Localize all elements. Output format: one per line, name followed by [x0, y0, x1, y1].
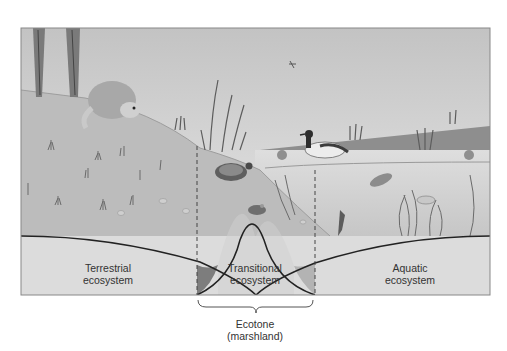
- terrestrial-label: Terrestrial ecosystem: [68, 262, 148, 286]
- ecotone-bracket: [198, 300, 313, 313]
- ecotone-diagram: [0, 0, 507, 351]
- aquatic-label: Aquatic ecosystem: [370, 262, 450, 286]
- transitional-label: Transitional ecosystem: [215, 262, 295, 286]
- ecotone-label: Ecotone (marshland): [215, 318, 295, 342]
